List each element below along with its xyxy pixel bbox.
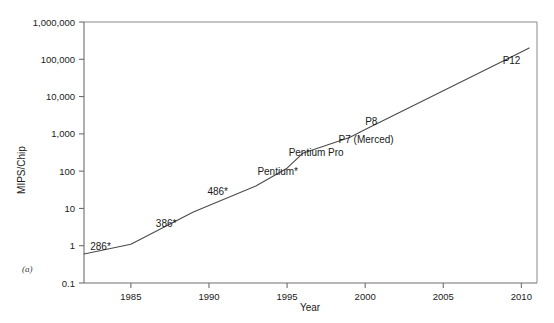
x-axis-ticks (131, 283, 522, 288)
y-tick-label: 10,000 (46, 91, 75, 102)
x-tick-label: 2005 (433, 291, 454, 302)
x-tick-label: 2010 (511, 291, 532, 302)
y-tick-label: 10 (64, 203, 75, 214)
x-tick-label: 1985 (120, 291, 141, 302)
data-point-label: Pentium* (257, 166, 298, 177)
data-point-label: P8 (365, 116, 378, 127)
x-tick-label: 2000 (355, 291, 376, 302)
x-axis-tick-labels: 198519901995200020052010 (120, 291, 532, 302)
y-tick-label: 100,000 (41, 54, 75, 65)
mips-per-chip-line-chart: 0.11101001,00010,000100,0001,000,000 MIP… (0, 0, 554, 323)
y-axis-ticks (79, 22, 84, 283)
data-point-label: Pentium Pro (289, 147, 344, 158)
x-axis-title: Year (300, 302, 321, 313)
data-point-label: 386* (156, 218, 177, 229)
y-tick-label: 1,000,000 (33, 17, 75, 28)
y-tick-label: 1,000 (51, 128, 75, 139)
y-tick-label: 0.1 (62, 278, 75, 289)
y-axis-tick-labels: 0.11101001,00010,000100,0001,000,000 (33, 17, 75, 289)
y-axis-title: MIPS/Chip (16, 146, 27, 194)
data-point-label: P12 (503, 55, 521, 66)
data-point-label: 286* (90, 241, 111, 252)
data-point-label: P7 (Merced) (339, 134, 394, 145)
data-point-label: 486* (207, 186, 228, 197)
y-axis: 0.11101001,00010,000100,0001,000,000 MIP… (16, 17, 84, 289)
x-tick-label: 1990 (198, 291, 219, 302)
figure-panel: 0.11101001,00010,000100,0001,000,000 MIP… (0, 0, 554, 323)
panel-label: (a) (22, 264, 33, 274)
x-axis: 198519901995200020052010 Year (84, 283, 537, 313)
y-tick-label: 100 (59, 166, 75, 177)
x-tick-label: 1995 (276, 291, 297, 302)
y-tick-label: 1 (70, 240, 75, 251)
